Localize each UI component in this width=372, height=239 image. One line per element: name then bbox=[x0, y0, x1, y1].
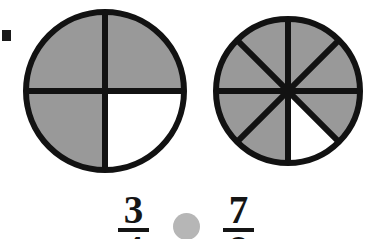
left-fraction-denominator: 4 bbox=[124, 233, 144, 239]
right-fraction-denominator: 8 bbox=[229, 233, 249, 239]
comparison-expression: 3 4 7 8 bbox=[0, 193, 372, 239]
left-fraction-numerator: 3 bbox=[124, 193, 144, 226]
comparison-answer-slot[interactable] bbox=[173, 213, 200, 239]
fraction-circle-three-fourths bbox=[20, 6, 190, 176]
left-fraction: 3 4 bbox=[117, 193, 151, 239]
margin-tick-mark bbox=[2, 30, 11, 41]
fraction-circle-seven-eighths bbox=[210, 13, 366, 169]
right-fraction: 7 8 bbox=[222, 193, 256, 239]
right-fraction-numerator: 7 bbox=[229, 193, 249, 226]
fraction-comparison-worksheet: 3 4 7 8 bbox=[0, 0, 372, 239]
